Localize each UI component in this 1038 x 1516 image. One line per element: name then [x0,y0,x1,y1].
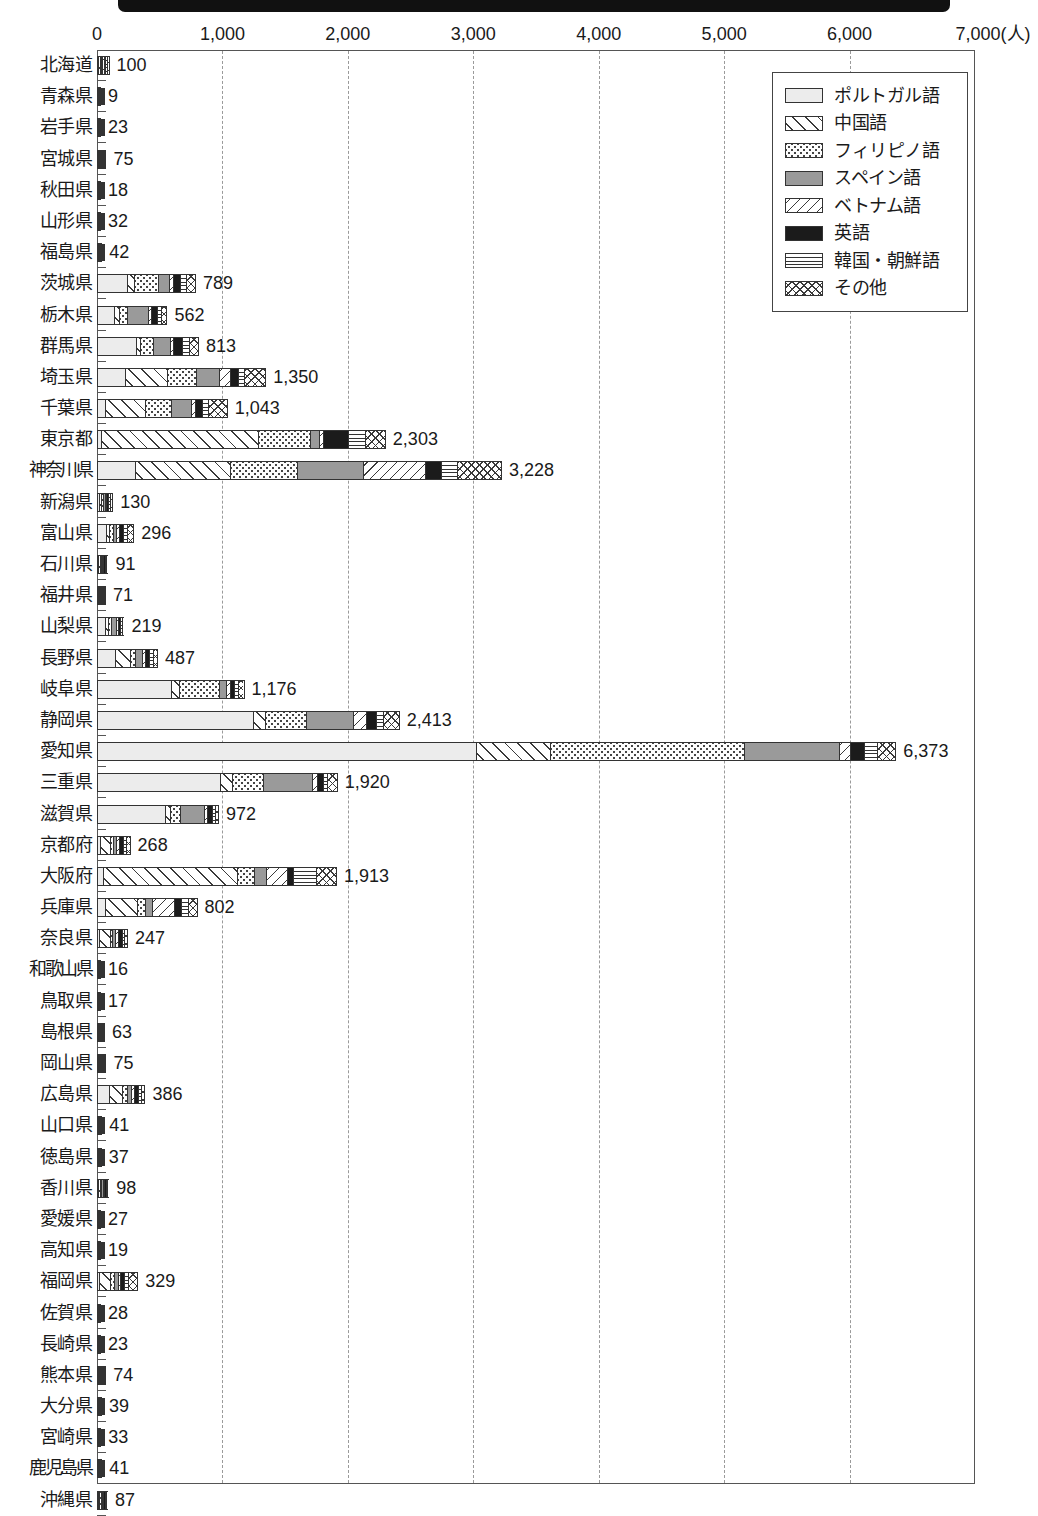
bar-segment-vi [364,462,425,479]
bar-value-label: 39 [109,1391,129,1422]
prefecture-label: 群馬県 [0,331,92,362]
y-axis-tick [97,1515,106,1516]
legend-swatch-es [785,171,823,186]
bar-value-label: 23 [108,1329,128,1360]
stacked-bar [97,430,386,449]
bar-value-label: 1,920 [345,767,390,798]
prefecture-label: 福岡県 [0,1266,92,1297]
bar-segment-vi [220,369,232,386]
x-tick-label-0: 0 [92,24,102,44]
bar-segment-ko [182,899,190,916]
legend-label: フィリピノ語 [834,142,939,160]
bar-segment-zh [116,650,131,667]
bar-segment-en [367,712,377,729]
bar-segment-pt [98,681,172,698]
bar-segment-ph [138,899,146,916]
x-tick-label-2000: 2,000 [325,24,370,44]
bar-row: 奈良県247 [0,923,1038,954]
bar-segment-en [851,743,866,760]
stacked-bar [97,118,101,137]
bar-row: 大分県39 [0,1391,1038,1422]
prefecture-label: 香川県 [0,1173,92,1204]
stacked-bar [97,1148,102,1167]
prefecture-label: 福井県 [0,580,92,611]
bar-value-label: 1,913 [344,861,389,892]
bar-segment-es [298,462,364,479]
bar-segment-es [220,681,227,698]
bar-segment-es [311,431,321,448]
bar-segment-ph [180,681,220,698]
prefecture-label: 愛媛県 [0,1204,92,1235]
bar-row: 沖縄県87 [0,1485,1038,1516]
stacked-bar [97,555,108,574]
bar-row: 神奈川県3,228 [0,455,1038,486]
stacked-bar [97,461,502,480]
prefecture-label: 広島県 [0,1079,92,1110]
bar-row: 富山県296 [0,518,1038,549]
bar-segment-pt [98,400,106,417]
bar-segment-ko [104,1117,105,1134]
bar-segment-es [264,774,313,791]
legend-swatch-ph [785,143,823,158]
bar-segment-zh [110,1086,123,1103]
bar-value-label: 9 [108,81,118,112]
bar-row: 宮崎県33 [0,1422,1038,1453]
prefecture-label: 石川県 [0,549,92,580]
legend-swatch-ko [785,253,823,268]
bar-segment-ot [142,1086,145,1103]
bar-segment-zh [104,868,238,885]
bar-segment-zh [126,369,167,386]
bar-segment-ot [162,307,167,324]
prefecture-label: 奈良県 [0,923,92,954]
chart-legend: ポルトガル語中国語フィリピノ語スペイン語ベトナム語英語韓国・朝鮮語その他 [772,72,968,312]
legend-item-en: 英語 [785,220,957,248]
prefecture-label: 愛知県 [0,736,92,767]
bar-segment-pt [98,525,107,542]
bar-row: 東京都2,303 [0,424,1038,455]
prefecture-label: 島根県 [0,1017,92,1048]
bar-segment-es [181,806,205,823]
prefecture-label: 佐賀県 [0,1298,92,1329]
prefecture-label: 神奈川県 [0,455,92,486]
prefecture-label: 青森県 [0,81,92,112]
bar-segment-ko [104,587,105,604]
prefecture-label: 高知県 [0,1235,92,1266]
x-axis-tick-labels: 01,0002,0003,0004,0005,0006,0007,000(人) [0,24,1038,48]
bar-row: 鳥取県17 [0,986,1038,1017]
stacked-bar [97,836,131,855]
prefecture-label: 山形県 [0,206,92,237]
bar-row: 香川県98 [0,1173,1038,1204]
prefecture-label: 山梨県 [0,611,92,642]
bar-segment-ot [317,868,336,885]
stacked-bar [97,1179,109,1198]
bar-segment-ot [458,462,501,479]
stacked-bar [97,929,128,948]
bar-row: 和歌山県16 [0,954,1038,985]
prefecture-label: 兵庫県 [0,892,92,923]
prefecture-label: 富山県 [0,518,92,549]
legend-item-ko: 韓国・朝鮮語 [785,247,957,275]
prefecture-label: 岩手県 [0,112,92,143]
stacked-bar [97,1023,105,1042]
bar-value-label: 87 [115,1485,135,1516]
bar-value-label: 3,228 [509,455,554,486]
x-tick-label-3000: 3,000 [451,24,496,44]
bar-segment-es [146,899,154,916]
bar-row: 愛媛県27 [0,1204,1038,1235]
bar-value-label: 16 [108,954,128,985]
stacked-bar [97,274,196,293]
bar-row: 静岡県2,413 [0,705,1038,736]
bar-segment-zh [100,1273,111,1290]
bar-segment-ko [104,1024,105,1041]
prefecture-label: 茨城県 [0,268,92,299]
prefecture-label: 山口県 [0,1110,92,1141]
bar-segment-pt [98,712,254,729]
bar-segment-ko [104,1336,105,1353]
stacked-bar [97,1272,138,1291]
prefecture-label: 鹿児島県 [0,1453,92,1484]
stacked-bar [97,1459,102,1478]
legend-item-zh: 中国語 [785,110,957,138]
bar-segment-ot [125,930,127,947]
bar-value-label: 91 [115,549,135,580]
